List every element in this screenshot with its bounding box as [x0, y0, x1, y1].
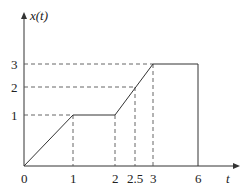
tick-t-3: 3	[150, 171, 157, 186]
tick-x-1: 1	[11, 108, 18, 123]
tick-t-0: 0	[21, 171, 28, 186]
tick-x-2: 2	[11, 80, 18, 95]
tick-t-1: 1	[70, 171, 77, 186]
tick-t-2: 2	[112, 171, 119, 186]
tick-t-6: 6	[195, 171, 202, 186]
x-axis-label: t	[226, 171, 230, 186]
function-curve	[24, 64, 198, 166]
t-axis-arrow-icon	[233, 163, 240, 169]
plot-canvas: x(t) t 0 1 2 2.5 3 6 1 2 3	[0, 0, 246, 188]
axes	[24, 16, 236, 166]
y-axis-label: x(t)	[29, 8, 48, 23]
y-axis-arrow-icon	[21, 12, 27, 19]
tick-x-3: 3	[11, 57, 18, 72]
x-of-t-plot: x(t) t 0 1 2 2.5 3 6 1 2 3	[0, 0, 246, 188]
tick-t-2-5: 2.5	[127, 171, 143, 186]
